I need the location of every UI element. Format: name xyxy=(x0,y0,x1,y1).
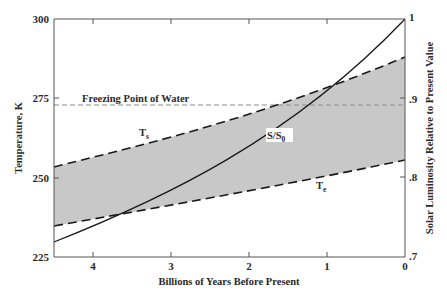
x-tick-3: 3 xyxy=(168,260,174,272)
y-right-axis-title: Solar Luminosity Relative to Present Val… xyxy=(424,41,435,234)
y-tick-250: 250 xyxy=(33,172,50,184)
chart-canvas: 300 275 250 225 1 .9 .8 .7 4 3 2 1 0 Bil… xyxy=(0,0,447,295)
te-label: Te xyxy=(316,180,327,194)
x-axis-title: Billions of Years Before Present xyxy=(159,276,300,287)
shaded-region xyxy=(54,57,405,226)
y-right-tick-1: 1 xyxy=(409,11,415,23)
y-axis-title: Temperature, K xyxy=(13,101,24,174)
x-tick-2: 2 xyxy=(246,260,252,272)
y-right-tick-0.7: .7 xyxy=(409,250,418,262)
y-tick-225: 225 xyxy=(33,251,50,263)
x-tick-4: 4 xyxy=(90,260,96,272)
x-tick-0: 0 xyxy=(402,260,408,272)
x-tick-1: 1 xyxy=(324,260,330,272)
freezing-point-label: Freezing Point of Water xyxy=(82,93,190,104)
ts-label: Ts xyxy=(139,127,149,141)
top-ticks xyxy=(93,19,327,24)
y-right-tick-0.9: .9 xyxy=(409,93,418,105)
y-right-tick-0.8: .8 xyxy=(409,171,418,183)
y-tick-275: 275 xyxy=(33,92,50,104)
y-tick-300: 300 xyxy=(33,13,50,25)
bottom-ticks xyxy=(93,252,327,257)
